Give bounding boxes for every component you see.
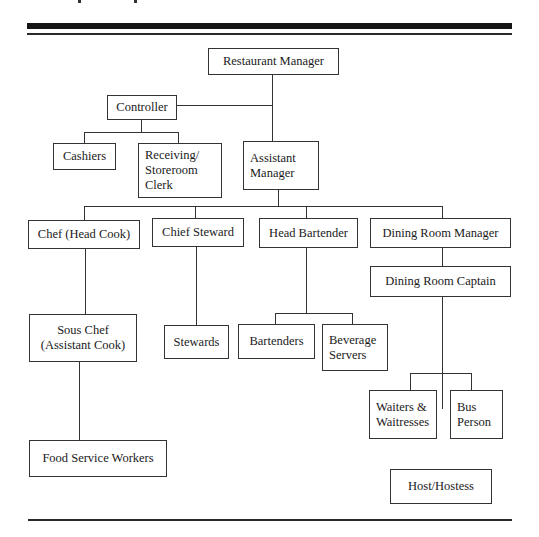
node-dining-room-manager: Dining Room Manager	[370, 218, 511, 248]
cropped-heading-descenders	[78, 0, 148, 3]
connector-line	[84, 206, 443, 207]
footer-rule	[28, 519, 512, 521]
connector-line	[84, 132, 85, 143]
node-chef-head-cook: Chef (Head Cook)	[28, 220, 140, 249]
connector-line	[84, 206, 85, 220]
connector-line	[410, 373, 411, 390]
connector-line	[278, 189, 279, 207]
node-chief-steward: Chief Steward	[152, 218, 244, 247]
connector-line	[410, 373, 472, 374]
node-restaurant-manager: Restaurant Manager	[208, 48, 339, 75]
connector-line	[442, 247, 443, 266]
connector-line	[178, 132, 179, 143]
node-receiving-storeroom-clerk: Receiving/ Storeroom Clerk	[138, 143, 222, 198]
connector-line	[195, 206, 196, 218]
connector-line	[79, 361, 80, 440]
connector-line	[275, 313, 353, 314]
connector-line	[306, 247, 307, 314]
node-stewards: Stewards	[164, 325, 229, 359]
connector-line	[141, 119, 142, 133]
node-head-bartender: Head Bartender	[259, 218, 358, 248]
connector-line	[442, 296, 443, 409]
node-controller: Controller	[107, 95, 177, 120]
node-sous-chef: Sous Chef (Assistant Cook)	[29, 314, 137, 362]
node-food-service-workers: Food Service Workers	[29, 440, 167, 477]
connector-line	[306, 206, 307, 218]
header-thin-rule	[27, 33, 512, 35]
node-bartenders: Bartenders	[238, 324, 315, 359]
connector-line	[85, 248, 86, 314]
node-dining-room-captain: Dining Room Captain	[370, 266, 511, 297]
connector-line	[275, 313, 276, 324]
connector-line	[176, 105, 273, 106]
connector-line	[471, 373, 472, 390]
node-host-hostess: Host/Hostess	[390, 469, 492, 504]
node-cashiers: Cashiers	[53, 143, 116, 170]
header-thick-rule	[27, 23, 512, 29]
connector-line	[196, 246, 197, 325]
connector-line	[84, 132, 179, 133]
node-beverage-servers: Beverage Servers	[322, 324, 388, 371]
node-bus-person: Bus Person	[450, 390, 503, 439]
connector-line	[272, 74, 273, 142]
node-assistant-manager: Assistant Manager	[243, 141, 319, 190]
connector-line	[442, 206, 443, 218]
node-waiters-waitresses: Waiters & Waitresses	[369, 390, 437, 439]
connector-line	[352, 313, 353, 324]
